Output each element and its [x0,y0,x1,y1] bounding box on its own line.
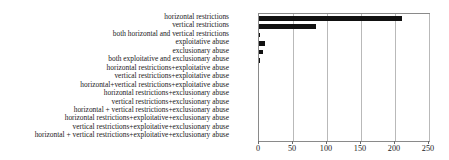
bar-row [259,132,429,140]
category-axis-labels: horizontal restrictionsvertical restrict… [0,13,232,140]
axis-tick-label: 250 [422,144,434,153]
bar [259,24,316,29]
bar-row [259,99,429,107]
bar-chart: horizontal restrictionsvertical restrict… [0,0,449,160]
axis-tick-label: 200 [388,144,400,153]
bar-row [259,124,429,132]
bar-row [259,14,429,22]
bar-row [259,73,429,81]
bar-row [259,31,429,39]
axis-tick-label: 150 [354,144,366,153]
bar-row [259,22,429,30]
bar-row [259,82,429,90]
bar [259,50,263,55]
bar-series [259,14,429,141]
gridline [429,14,430,141]
bar-row [259,115,429,123]
axis-tick-label: 100 [320,144,332,153]
bar-row [259,39,429,47]
bar-row [259,65,429,73]
category-label: horizontal + vertical restrictions+explo… [0,131,232,139]
bar-row [259,56,429,64]
bar [259,16,402,21]
bar-row [259,107,429,115]
plot-area [258,13,430,142]
bar [259,41,265,46]
bar-row [259,48,429,56]
value-axis: 050100150200250 [258,141,429,159]
bar-row [259,90,429,98]
bar [259,58,260,63]
axis-tick-label: 50 [288,144,296,153]
bar [259,33,260,38]
axis-tick-label: 0 [256,144,260,153]
